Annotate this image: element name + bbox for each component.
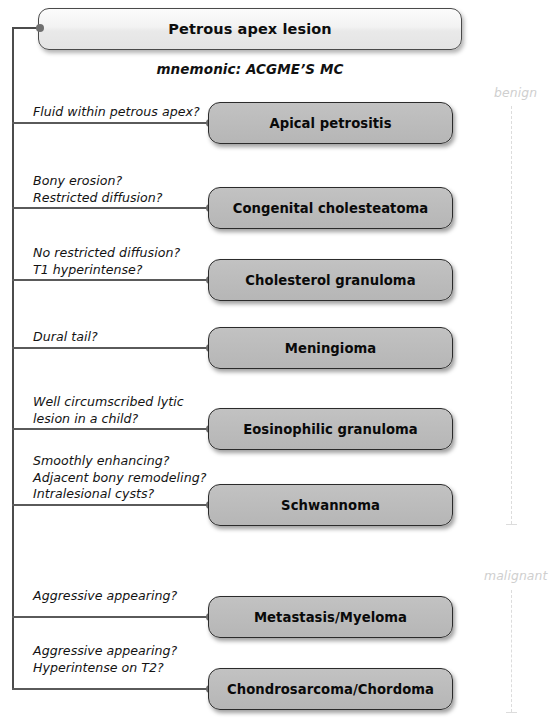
branch-question-1: Bony erosion? Restricted diffusion? — [33, 173, 162, 206]
leaf-node-apical-petrositis[interactable]: Apical petrositis — [208, 102, 453, 144]
branch-line-7 — [12, 688, 210, 690]
root-node-label: Petrous apex lesion — [168, 21, 332, 37]
branch-line-5 — [12, 504, 210, 506]
diagram-canvas: Petrous apex lesion mnemonic: ACGME’S MC… — [0, 0, 557, 724]
branch-question-4: Well circumscribed lytic lesion in a chi… — [33, 394, 184, 427]
leaf-node-metastasis-myeloma[interactable]: Metastasis/Myeloma — [208, 596, 453, 638]
branch-question-2: No restricted diffusion? T1 hyperintense… — [33, 245, 180, 278]
axis-end-cap-malignant — [506, 712, 517, 713]
axis-label-malignant: malignant — [484, 568, 547, 583]
branch-line-3 — [12, 347, 210, 349]
axis-dashed-line-malignant — [511, 590, 512, 712]
leaf-node-congenital-cholesteatoma[interactable]: Congenital cholesteatoma — [208, 187, 453, 229]
scan-artifact-strip — [0, 0, 200, 5]
leaf-node-label-6: Metastasis/Myeloma — [248, 610, 413, 625]
trunk-line — [12, 27, 14, 689]
leaf-node-label-1: Congenital cholesteatoma — [227, 201, 435, 216]
axis-end-cap-benign — [506, 524, 517, 525]
branch-question-3: Dural tail? — [33, 329, 98, 346]
leaf-node-schwannoma[interactable]: Schwannoma — [208, 484, 453, 526]
leaf-node-label-4: Eosinophilic granuloma — [237, 422, 424, 437]
leaf-node-label-5: Schwannoma — [275, 498, 386, 513]
leaf-node-chondrosarcoma-chordoma[interactable]: Chondrosarcoma/Chordoma — [208, 668, 453, 710]
branch-line-4 — [12, 428, 210, 430]
branch-question-7: Aggressive appearing? Hyperintense on T2… — [33, 643, 177, 676]
axis-dashed-line-benign — [511, 106, 512, 524]
leaf-node-label-2: Cholesterol granuloma — [239, 273, 421, 288]
branch-line-6 — [12, 616, 210, 618]
leaf-node-meningioma[interactable]: Meningioma — [208, 327, 453, 369]
branch-line-1 — [12, 207, 210, 209]
mnemonic-text: mnemonic: ACGME’S MC — [38, 61, 462, 77]
leaf-node-eosinophilic-granuloma[interactable]: Eosinophilic granuloma — [208, 408, 453, 450]
branch-line-2 — [12, 279, 210, 281]
leaf-node-label-7: Chondrosarcoma/Chordoma — [221, 682, 440, 697]
branch-question-6: Aggressive appearing? — [33, 588, 177, 605]
root-connector-dot — [36, 24, 44, 32]
branch-question-5: Smoothly enhancing? Adjacent bony remode… — [33, 453, 206, 503]
axis-label-benign: benign — [494, 85, 537, 100]
root-node-petrous-apex-lesion[interactable]: Petrous apex lesion — [38, 8, 462, 50]
leaf-node-cholesterol-granuloma[interactable]: Cholesterol granuloma — [208, 259, 453, 301]
branch-line-0 — [12, 122, 210, 124]
branch-question-0: Fluid within petrous apex? — [33, 104, 200, 121]
leaf-node-label-0: Apical petrositis — [263, 116, 397, 131]
leaf-node-label-3: Meningioma — [279, 341, 383, 356]
